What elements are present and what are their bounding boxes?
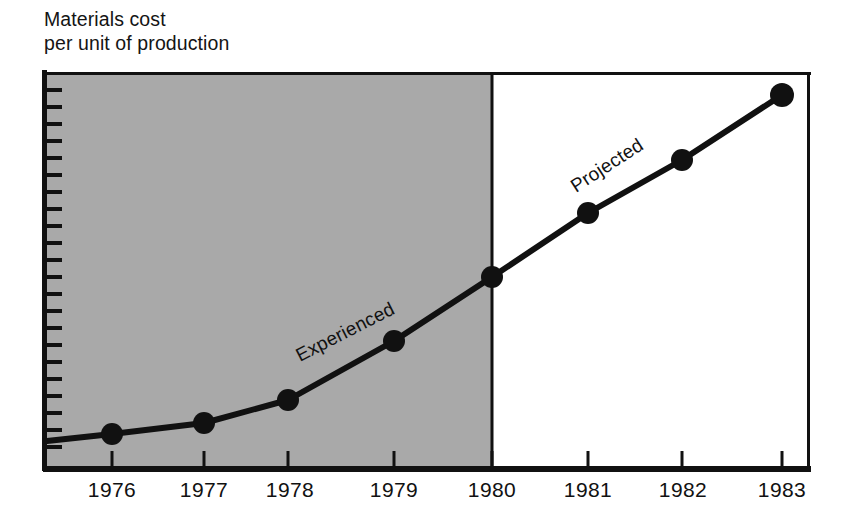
data-point-1978	[277, 389, 299, 411]
x-label-1981: 1981	[564, 478, 612, 501]
data-point-1981	[577, 202, 599, 224]
chart-svg: Experienced Projected 1976 1977 1978 197…	[0, 0, 854, 525]
plot-area: Experienced Projected 1976 1977 1978 197…	[0, 0, 854, 525]
data-point-1983	[770, 83, 794, 107]
x-label-1976: 1976	[88, 478, 136, 501]
chart-figure: Materials cost per unit of production	[0, 0, 854, 525]
x-label-1979: 1979	[370, 478, 418, 501]
data-point-1980	[481, 266, 503, 288]
data-point-1979	[383, 330, 405, 352]
shaded-experienced-region	[43, 72, 492, 470]
x-label-1983: 1983	[758, 478, 806, 501]
x-axis-tick-labels: 1976 1977 1978 1979 1980 1981 1982 1983	[88, 478, 806, 501]
data-point-1976	[101, 423, 123, 445]
x-label-1982: 1982	[659, 478, 707, 501]
x-label-1980: 1980	[468, 478, 516, 501]
x-label-1978: 1978	[266, 478, 314, 501]
data-point-1982	[671, 149, 693, 171]
data-point-1977	[193, 412, 215, 434]
x-label-1977: 1977	[180, 478, 228, 501]
